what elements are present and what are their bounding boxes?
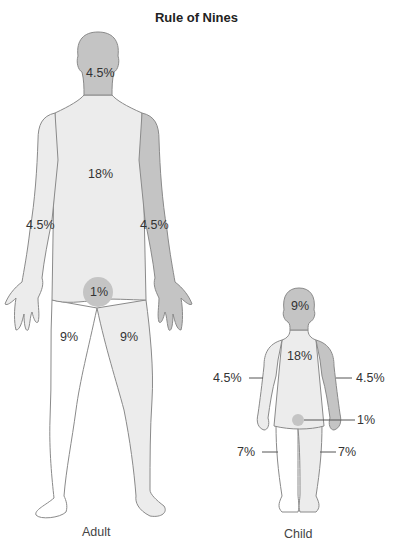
child-figure bbox=[249, 288, 355, 512]
child-right-leg-label: 7% bbox=[338, 445, 356, 459]
adult-right-arm-label: 4.5% bbox=[140, 218, 169, 232]
child-genitalia-label: 1% bbox=[357, 413, 375, 427]
adult-left-leg-label: 9% bbox=[60, 330, 78, 344]
rule-of-nines-figures bbox=[0, 0, 393, 542]
child-right-leg bbox=[298, 424, 322, 512]
adult-left-arm-label: 4.5% bbox=[26, 218, 55, 232]
child-caption: Child bbox=[284, 527, 313, 541]
child-left-arm-label: 4.5% bbox=[213, 371, 242, 385]
adult-head-label: 4.5% bbox=[86, 66, 115, 80]
child-genitalia-region bbox=[292, 414, 304, 426]
adult-head bbox=[77, 32, 119, 95]
child-head-label: 9% bbox=[291, 299, 309, 313]
adult-trunk bbox=[52, 95, 146, 302]
adult-figure bbox=[5, 32, 192, 518]
adult-caption: Adult bbox=[82, 525, 111, 539]
adult-right-leg-label: 9% bbox=[120, 330, 138, 344]
adult-genitalia-label: 1% bbox=[90, 285, 108, 299]
child-left-leg-label: 7% bbox=[237, 445, 255, 459]
adult-trunk-label: 18% bbox=[88, 167, 113, 181]
child-right-arm-label: 4.5% bbox=[356, 371, 385, 385]
child-left-leg bbox=[276, 424, 299, 512]
child-trunk-label: 18% bbox=[287, 349, 312, 363]
